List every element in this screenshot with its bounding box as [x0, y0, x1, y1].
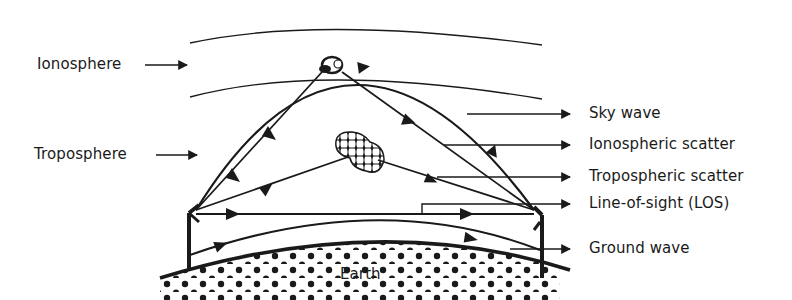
line-of-sight-pointer — [422, 204, 570, 214]
label-ground-wave: Ground wave — [589, 241, 690, 256]
sky-wave-arrow-up — [357, 60, 371, 74]
label-earth: Earth — [340, 267, 381, 282]
ionospheric-scatter-region — [319, 57, 342, 73]
label-ionospheric-scatter: Ionospheric scatter — [589, 137, 735, 152]
los-arrow-right — [460, 208, 474, 220]
los-arrow-left — [226, 208, 240, 220]
label-troposphere: Troposphere — [34, 147, 127, 162]
label-tropospheric-scatter: Tropospheric scatter — [589, 169, 744, 184]
tropospheric-scatter-ray-down — [378, 160, 534, 210]
ionospheric-scatter-ray-up — [196, 72, 322, 210]
ground-wave-arrow-right — [463, 232, 479, 246]
ground-wave-arrow-left — [213, 240, 229, 253]
tropospheric-scatter-ray-up — [196, 157, 348, 210]
ionosphere-upper-boundary — [190, 29, 542, 45]
label-ionosphere: Ionosphere — [37, 57, 121, 72]
tropospheric-scatter-arrow-up — [259, 183, 276, 197]
ionospheric-scatter-arrow-up — [262, 126, 276, 140]
label-line-of-sight: Line-of-sight (LOS) — [589, 196, 729, 211]
tropospheric-scatter-region — [336, 132, 384, 172]
sky-wave-arrow-lower — [226, 168, 240, 182]
label-sky-wave: Sky wave — [589, 106, 661, 121]
